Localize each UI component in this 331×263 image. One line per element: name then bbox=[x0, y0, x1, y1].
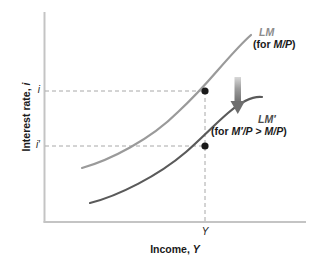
equilibrium-point-lower bbox=[201, 142, 208, 149]
y-tick-label-i-prime: i′ bbox=[20, 139, 40, 151]
equilibrium-point-upper bbox=[201, 87, 208, 94]
lm-prime-curve-sublabel: (for M′/P > M/P) bbox=[211, 125, 287, 137]
lm-sublabel-ratio: M/P bbox=[273, 38, 292, 50]
lm-prime-sublabel-ratio-new: M′/P bbox=[231, 125, 252, 137]
lm-prime-sublabel-close: ) bbox=[283, 125, 287, 137]
lm-curve-label: LM bbox=[259, 26, 274, 38]
lm-prime-sublabel-open: (for bbox=[211, 125, 231, 137]
lm-curve bbox=[82, 35, 251, 168]
x-tick-label-Y: Y bbox=[190, 226, 220, 238]
lm-sublabel-close: ) bbox=[292, 38, 296, 50]
y-axis-title: Interest rate, i bbox=[20, 47, 32, 187]
y-tick-label-i: i bbox=[22, 84, 40, 96]
lm-prime-sublabel-ratio-old: M/P bbox=[265, 125, 284, 137]
lm-prime-sublabel-operator: > bbox=[253, 125, 265, 137]
lm-curve-sublabel: (for M/P) bbox=[253, 38, 296, 50]
x-axis-title: Income, Y bbox=[44, 243, 306, 255]
lm-curve-shift-figure: Interest rate, i Income, Y i i′ Y LM (fo… bbox=[0, 0, 331, 263]
x-axis-title-text: Income, bbox=[150, 243, 193, 255]
lm-sublabel-open: (for bbox=[253, 38, 273, 50]
lm-prime-curve-label: LM′ bbox=[258, 113, 276, 125]
x-axis-title-symbol: Y bbox=[193, 243, 200, 255]
